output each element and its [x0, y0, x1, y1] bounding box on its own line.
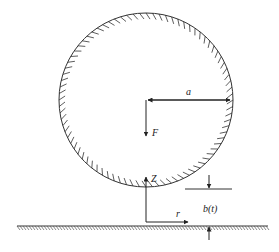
radius-label: a	[186, 86, 191, 97]
gap-label: b(t)	[203, 203, 218, 215]
wall	[17, 226, 269, 230]
z-axis-label: Z	[151, 173, 157, 184]
sphere-wall-diagram: a F Z r b(t)	[0, 0, 279, 252]
force-label: F	[151, 127, 159, 138]
r-axis-label: r	[176, 208, 180, 219]
